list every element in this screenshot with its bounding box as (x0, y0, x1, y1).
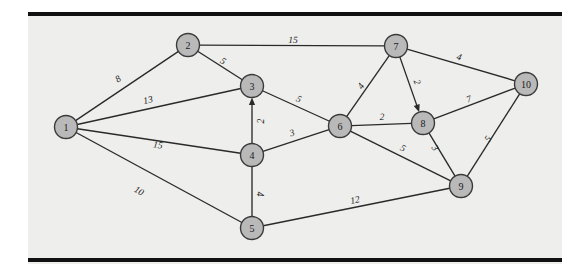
graph-edge-6-8 (351, 123, 411, 125)
graph-node-label-2: 2 (186, 40, 191, 51)
graph-node-label-3: 3 (250, 81, 255, 92)
edge-weight-4-3: 2 (256, 118, 266, 123)
edge-weight-1-5: 10 (132, 184, 145, 197)
edge-weight-1-2: 8 (113, 73, 123, 84)
graph-node-label-5: 5 (250, 223, 255, 234)
edge-weight-7-10: 4 (455, 52, 463, 63)
graph-node-label-4: 4 (250, 150, 255, 161)
edge-weight-8-10: 7 (465, 93, 474, 104)
arrowhead-4-3 (249, 98, 255, 106)
arrowheads-layer (249, 98, 420, 113)
graph-edge-9-10 (467, 94, 520, 177)
edge-weight-8-9: 3 (429, 143, 441, 153)
edge-weight-6-9: 5 (399, 142, 408, 153)
graph-node-label-7: 7 (394, 41, 399, 52)
graph-edge-2-7 (199, 45, 384, 46)
graph-node-label-6: 6 (338, 121, 343, 132)
graph-edge-8-10 (434, 88, 515, 119)
edge-weight-4-6: 3 (287, 127, 296, 138)
edge-weight-3-6: 5 (295, 93, 304, 104)
edge-weight-4-5: 4 (255, 192, 265, 197)
edge-weight-6-8: 2 (379, 112, 384, 122)
graph-edge-8-9 (429, 133, 455, 176)
graph-edge-1-3 (77, 88, 241, 124)
graph-edge-3-6 (262, 91, 329, 121)
graph-edge-4-6 (263, 130, 329, 152)
edge-weight-9-10: 5 (483, 134, 494, 144)
edge-weight-7-8: 2 (411, 78, 422, 86)
graph-node-label-1: 1 (64, 122, 69, 133)
graph-edge-6-7 (347, 55, 390, 116)
edge-weight-1-3: 13 (142, 94, 154, 106)
edge-weight-5-9: 12 (349, 194, 361, 206)
edges-layer (76, 45, 520, 226)
edge-weight-1-4: 15 (153, 139, 164, 150)
graph-node-label-9: 9 (459, 181, 464, 192)
graph-node-label-8: 8 (421, 118, 426, 129)
graph-edge-2-3 (198, 51, 243, 80)
edge-labels-layer: 813151015525341242524735 (113, 35, 493, 206)
figure-page: 12345678910 813151015525341242524735 (0, 0, 587, 273)
graph-edge-1-2 (76, 51, 179, 120)
edge-weight-2-7: 15 (288, 35, 298, 45)
graph-edge-6-9 (350, 131, 450, 181)
graph-node-label-10: 10 (521, 79, 531, 90)
network-graph: 12345678910 813151015525341242524735 (0, 0, 587, 273)
arrowhead-7-8 (414, 104, 420, 112)
